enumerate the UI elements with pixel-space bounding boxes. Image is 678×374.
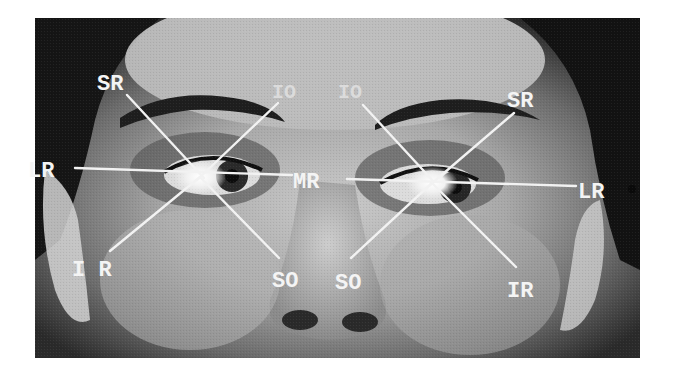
eye-muscle-figure: LR SR IO I R SO MR IO SR LR SO IR xyxy=(0,0,678,374)
label-left-sr: SR xyxy=(97,72,124,97)
label-right-ir: IR xyxy=(507,279,534,304)
label-left-ir: I R xyxy=(72,258,112,283)
label-left-lr: LR xyxy=(28,159,55,184)
label-right-io: IO xyxy=(338,81,362,104)
label-mr: MR xyxy=(293,170,320,195)
label-right-sr: SR xyxy=(507,89,534,114)
label-left-so: SO xyxy=(272,269,298,294)
face-photograph xyxy=(35,0,640,358)
label-right-lr: LR xyxy=(578,180,605,205)
label-right-so: SO xyxy=(335,271,361,296)
label-left-io: IO xyxy=(272,81,296,104)
